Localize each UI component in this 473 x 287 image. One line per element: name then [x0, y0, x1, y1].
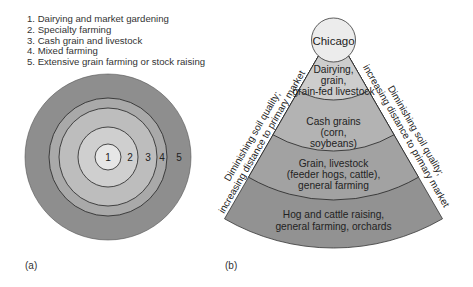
panel-a-label: (a) — [25, 260, 37, 271]
band-4-line-1: Hog and cattle raising, — [283, 209, 384, 220]
ring-number-1: 1 — [105, 152, 111, 163]
band-3-line-2: (feeder hogs, cattle), — [287, 169, 380, 180]
band-1-line-2: grain, — [321, 75, 346, 86]
band-1-line-3: grain-fed livestock — [292, 86, 375, 97]
ring-number-4: 4 — [159, 152, 165, 163]
ring-number-2: 2 — [127, 152, 133, 163]
ring-number-3: 3 — [145, 152, 151, 163]
fan-diagram: Chicago Dairying, grain, grain-fed lives… — [207, 18, 462, 248]
band-2-line-1: Cash grains — [306, 116, 360, 127]
band-3-line-1: Grain, livestock — [299, 158, 370, 169]
band-1-line-1: Dairying, — [313, 64, 353, 75]
ring-number-5: 5 — [176, 152, 182, 163]
chicago-label: Chicago — [312, 35, 354, 47]
panel-b-label: (b) — [225, 260, 237, 271]
concentric-rings-diagram: 1 2 3 4 5 — [25, 74, 191, 240]
diagram-canvas: 1 2 3 4 5 Chicago Dairying, grain, grain… — [0, 0, 473, 287]
band-2-line-2: (corn, — [320, 127, 346, 138]
band-4-line-2: general farming, orchards — [275, 221, 391, 232]
band-2-line-3: soybeans) — [310, 138, 357, 149]
band-3-line-3: general farming — [298, 180, 369, 191]
